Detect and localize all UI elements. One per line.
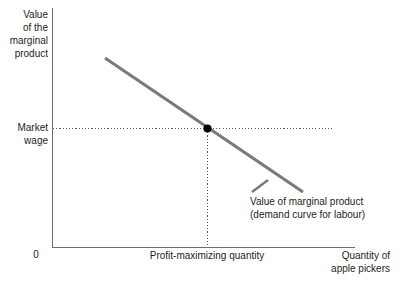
annotation-leader-line xyxy=(252,180,268,192)
chart-plot-area xyxy=(0,0,400,288)
demand-curve-annotation: Value of marginal product (demand curve … xyxy=(250,195,400,221)
profit-maximizing-quantity-axis-label: Profit-maximizing quantity xyxy=(132,249,282,262)
y-axis-title: Value of the marginal product xyxy=(0,8,48,60)
demand-curve-line xyxy=(105,58,303,192)
economics-chart-figure: Value of the marginal product Market wag… xyxy=(0,0,400,288)
x-axis-title: Quantity of apple pickers xyxy=(280,249,390,275)
origin-label: 0 xyxy=(26,248,46,261)
market-wage-axis-label: Market wage xyxy=(0,121,48,147)
equilibrium-point-marker xyxy=(203,124,211,132)
